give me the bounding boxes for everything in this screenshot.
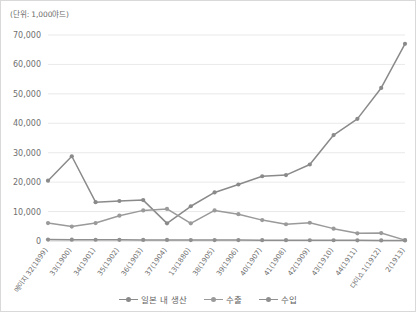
data-point	[141, 238, 145, 242]
x-axis-tick-label: 44(1911)	[334, 246, 359, 277]
data-point	[236, 182, 240, 186]
data-point	[94, 238, 98, 242]
x-axis-tick-label: 33(1900)	[48, 246, 73, 277]
data-point	[46, 221, 50, 225]
data-point	[332, 238, 336, 242]
data-point	[189, 238, 193, 242]
data-point	[165, 238, 169, 242]
x-axis-tick-label: 41(1908)	[263, 246, 288, 277]
data-point	[117, 238, 121, 242]
y-axis-tick-label: 50,000	[13, 90, 41, 99]
data-point	[403, 42, 407, 46]
data-point	[236, 238, 240, 242]
data-point	[332, 227, 336, 231]
data-point	[355, 238, 359, 242]
data-point	[308, 238, 312, 242]
data-point	[332, 133, 336, 137]
data-point	[284, 238, 288, 242]
y-axis-tick-label: 30,000	[13, 149, 41, 158]
data-point	[189, 204, 193, 208]
legend-label: 수입	[281, 293, 297, 305]
data-point	[260, 238, 264, 242]
data-point	[165, 207, 169, 211]
data-series-group	[46, 42, 407, 243]
data-point	[355, 231, 359, 235]
y-axis-tick-label: 10,000	[13, 208, 41, 217]
data-point	[70, 224, 74, 228]
data-point	[46, 237, 50, 241]
gridlines	[48, 35, 405, 241]
data-point	[70, 238, 74, 242]
data-point	[94, 221, 98, 225]
x-axis-tick-label: 37(1904)	[144, 246, 169, 277]
x-axis-tick-label: 35(1902)	[96, 246, 121, 277]
series-line	[48, 44, 405, 224]
data-point	[284, 173, 288, 177]
legend-item[interactable]: 일본 내 생산	[119, 293, 186, 305]
data-point	[117, 199, 121, 203]
y-axis-tick-label: 60,000	[13, 60, 41, 69]
x-axis-tick-label: 42(1909)	[286, 246, 311, 277]
data-point	[379, 231, 383, 235]
data-point	[236, 212, 240, 216]
x-axis-tick-labels: 메이지 32(1899)33(1900)34(1901)35(1902)36(1…	[12, 246, 407, 294]
data-point	[308, 162, 312, 166]
data-point	[94, 200, 98, 204]
x-axis-tick-label: 13(1880)	[167, 246, 192, 277]
legend-label: 일본 내 생산	[141, 293, 186, 305]
data-point	[70, 154, 74, 158]
x-axis-tick-label: 40(1907)	[239, 246, 264, 277]
data-point	[213, 208, 217, 212]
x-axis-tick-label: 34(1901)	[72, 246, 97, 277]
data-point	[355, 117, 359, 121]
data-point	[260, 218, 264, 222]
y-axis-tick-label: 70,000	[13, 31, 41, 40]
line-marker-icon	[259, 295, 278, 304]
data-point	[141, 208, 145, 212]
data-point	[284, 222, 288, 226]
data-point	[189, 221, 193, 225]
y-axis-tick-label: 20,000	[13, 178, 41, 187]
data-point	[117, 214, 121, 218]
chart-container: (단위: 1,000야드) 010,00020,00030,00040,0005…	[0, 0, 416, 312]
x-axis-tick-label: 2(1913)	[384, 246, 407, 274]
line-marker-icon	[204, 295, 223, 304]
x-axis-tick-label: 43(1910)	[310, 246, 335, 277]
data-point	[379, 86, 383, 90]
x-axis-tick-label: 38(1905)	[191, 246, 216, 277]
data-point	[141, 198, 145, 202]
series-line	[48, 209, 405, 240]
data-point	[165, 221, 169, 225]
data-point	[260, 174, 264, 178]
y-axis-tick-label: 0	[36, 237, 41, 246]
x-axis-tick-label: 36(1903)	[120, 246, 145, 277]
data-point	[46, 179, 50, 183]
y-axis-tick-labels: 010,00020,00030,00040,00050,00060,00070,…	[13, 31, 41, 246]
chart-legend: 일본 내 생산수출수입	[1, 293, 415, 305]
legend-item[interactable]: 수출	[204, 293, 242, 305]
x-axis-tick-label: 39(1906)	[215, 246, 240, 277]
data-point	[403, 238, 407, 242]
line-chart-plot: 010,00020,00030,00040,00050,00060,00070,…	[1, 1, 416, 312]
legend-item[interactable]: 수입	[259, 293, 297, 305]
series-line	[48, 240, 405, 241]
data-point	[213, 238, 217, 242]
legend-label: 수출	[226, 293, 242, 305]
line-marker-icon	[119, 295, 138, 304]
y-axis-tick-label: 40,000	[13, 119, 41, 128]
x-axis-tick-label: 메이지 32(1899)	[12, 246, 50, 294]
data-point	[379, 238, 383, 242]
data-point	[213, 190, 217, 194]
data-point	[308, 221, 312, 225]
